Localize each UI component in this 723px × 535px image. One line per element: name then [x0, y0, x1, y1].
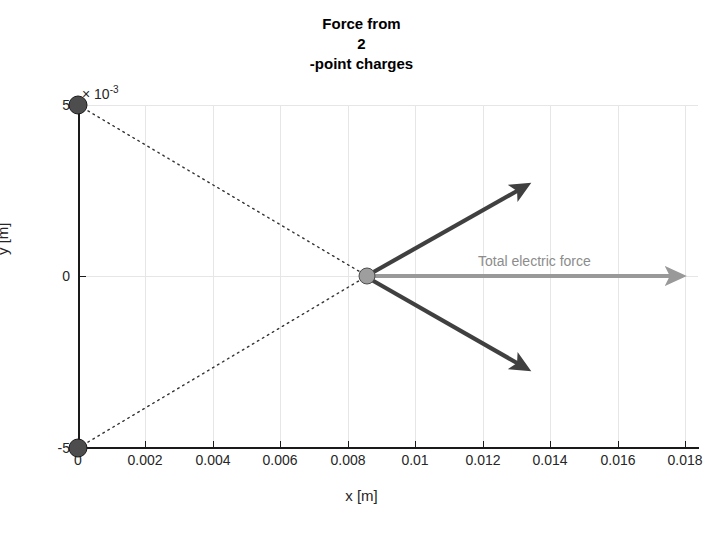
force-vector-lower-arrow	[370, 279, 524, 367]
test-charge-marker[interactable]	[359, 268, 376, 285]
point-charge-marker-upper[interactable]	[69, 96, 88, 115]
x-axis-label: x [m]	[0, 487, 723, 504]
force-vectors-layer	[0, 0, 723, 535]
figure-canvas: Force from 2 -point charges 0 0.002 0.00…	[0, 0, 723, 535]
y-axis-label: y [m]	[0, 223, 11, 256]
point-charge-marker-lower[interactable]	[69, 439, 88, 458]
total-electric-force-annotation: Total electric force	[478, 253, 591, 269]
